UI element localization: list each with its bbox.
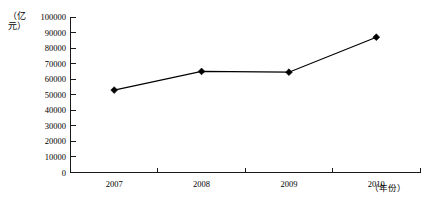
data-point-marker <box>198 68 205 75</box>
y-axis-tick-labels: 0100002000030000400005000060000700008000… <box>41 12 67 178</box>
y-axis-tick-label: 10000 <box>45 152 66 162</box>
y-axis-tick-label: 20000 <box>45 136 66 146</box>
y-axis-tick-label: 0 <box>62 168 66 178</box>
y-axis-tick-label: 70000 <box>45 59 66 69</box>
y-axis-tick-label: 30000 <box>45 121 66 131</box>
series-data-markers <box>111 34 380 94</box>
x-axis-tick-marks <box>158 168 420 173</box>
x-axis-category-label: 2007 <box>106 179 123 189</box>
x-axis-category-label: 2009 <box>280 179 297 189</box>
series-line-path <box>114 37 376 90</box>
y-axis-tick-label: 60000 <box>45 74 66 84</box>
line-chart: （亿元） 01000020000300004000050000600007000… <box>0 0 432 200</box>
y-axis-tick-label: 90000 <box>45 28 66 38</box>
data-point-marker <box>373 34 380 41</box>
data-point-marker <box>111 87 118 94</box>
y-axis-tick-label: 100000 <box>41 12 67 22</box>
chart-plot-area: 0100002000030000400005000060000700008000… <box>0 0 432 200</box>
x-axis-title: （年份） <box>370 183 406 193</box>
y-axis-tick-label: 80000 <box>45 43 66 53</box>
data-point-marker <box>286 69 293 76</box>
x-axis-category-labels: 2007200820092010 <box>106 179 385 189</box>
y-axis-tick-label: 50000 <box>45 90 66 100</box>
y-axis-tick-marks <box>71 17 76 157</box>
y-axis-tick-label: 40000 <box>45 105 66 115</box>
x-axis-category-label: 2008 <box>193 179 210 189</box>
